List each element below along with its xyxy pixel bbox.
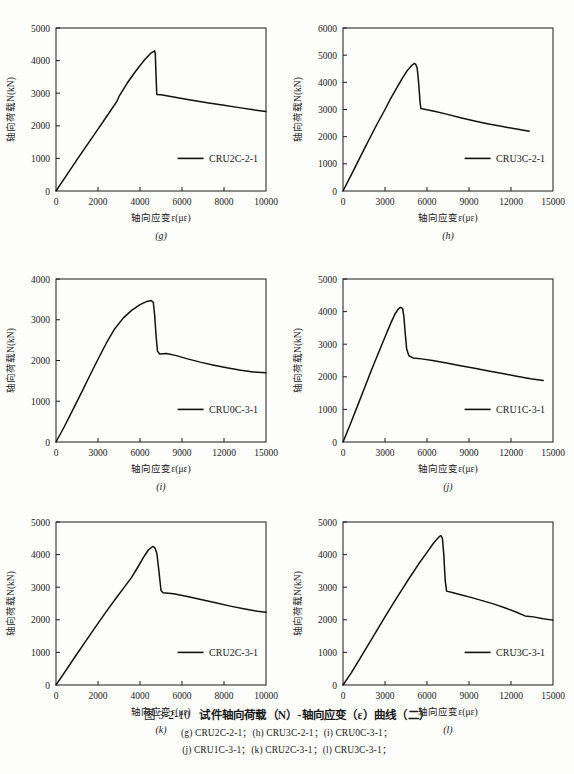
- y-tick-label: 5000: [31, 518, 50, 528]
- y-tick-label: 1000: [31, 154, 50, 164]
- x-tick-label: 0: [341, 448, 346, 458]
- y-tick-label: 5000: [318, 275, 337, 285]
- x-tick-label: 3000: [376, 448, 395, 458]
- y-tick-label: 1000: [318, 648, 337, 658]
- y-tick-label: 0: [332, 438, 337, 448]
- x-tick-label: 4000: [131, 691, 150, 701]
- x-tick-label: 3000: [376, 197, 395, 207]
- y-tick-label: 0: [332, 681, 337, 691]
- legend-label: CRU0C-3-1: [209, 404, 258, 415]
- y-tick-label: 4000: [31, 275, 50, 285]
- x-tick-label: 6000: [173, 197, 192, 207]
- y-axis-title: 轴向荷载N(kN): [5, 571, 17, 636]
- plot-frame: [343, 28, 553, 191]
- subplot-i: 0100020003000400003000600090001200015000…: [0, 257, 287, 502]
- y-tick-label: 5000: [318, 518, 337, 528]
- panel-letter: (g): [155, 230, 167, 242]
- y-tick-label: 1000: [31, 397, 50, 407]
- figure-caption: 图 3-2-10 试件轴向荷载（N）-轴向应变（ε）曲线（二） (g) CRU2…: [0, 706, 574, 756]
- x-tick-label: 6000: [418, 691, 437, 701]
- x-tick-label: 8000: [215, 691, 234, 701]
- x-axis-title: 轴向应变ε(με): [131, 463, 190, 475]
- data-curve: [343, 307, 543, 442]
- chart-g: 0100020003000400050000200040006000800010…: [0, 6, 287, 251]
- x-tick-label: 12000: [499, 691, 523, 701]
- caption-label: 图 3-2-10: [144, 709, 190, 721]
- y-axis-title: 轴向荷载N(kN): [5, 77, 17, 142]
- y-axis-title: 轴向荷载N(kN): [292, 77, 304, 142]
- y-tick-label: 2000: [318, 372, 337, 382]
- data-curve: [56, 301, 266, 442]
- caption-main-line: 图 3-2-10 试件轴向荷载（N）-轴向应变（ε）曲线（二）: [0, 706, 574, 722]
- y-tick-label: 4000: [31, 56, 50, 66]
- x-tick-label: 9000: [460, 691, 479, 701]
- y-tick-label: 2000: [31, 356, 50, 366]
- y-tick-label: 3000: [318, 583, 337, 593]
- x-tick-label: 15000: [541, 448, 565, 458]
- x-tick-label: 2000: [89, 691, 108, 701]
- legend-label: CRU3C-2-1: [496, 153, 545, 164]
- x-tick-label: 6000: [173, 691, 192, 701]
- y-tick-label: 4000: [318, 550, 337, 560]
- y-tick-label: 5000: [318, 51, 337, 61]
- y-tick-label: 0: [45, 187, 50, 197]
- legend-label: CRU2C-2-1: [209, 153, 258, 164]
- x-tick-label: 3000: [376, 691, 395, 701]
- y-tick-label: 0: [332, 187, 337, 197]
- legend-label: CRU3C-3-1: [496, 647, 545, 658]
- x-tick-label: 6000: [418, 448, 437, 458]
- y-tick-label: 1000: [318, 159, 337, 169]
- y-tick-label: 0: [45, 438, 50, 448]
- y-axis-title: 轴向荷载N(kN): [292, 571, 304, 636]
- x-tick-label: 4000: [131, 197, 150, 207]
- x-tick-label: 12000: [499, 448, 523, 458]
- x-tick-label: 15000: [541, 691, 565, 701]
- x-tick-label: 0: [54, 448, 59, 458]
- x-tick-label: 0: [341, 197, 346, 207]
- y-tick-label: 2000: [31, 121, 50, 131]
- caption-title: 试件轴向荷载（N）-轴向应变（ε）曲线（二）: [199, 709, 429, 721]
- x-tick-label: 15000: [254, 448, 278, 458]
- caption-sub-line-2: (j) CRU1C-3-1；(k) CRU2C-3-1；(l) CRU3C-3-…: [0, 742, 574, 756]
- x-tick-label: 9000: [173, 448, 192, 458]
- x-tick-label: 0: [54, 197, 59, 207]
- plot-frame: [343, 279, 553, 442]
- subplot-g: 0100020003000400050000200040006000800010…: [0, 6, 287, 251]
- y-axis-title: 轴向荷载N(kN): [5, 328, 17, 393]
- x-tick-label: 6000: [131, 448, 150, 458]
- caption-sub-line-1: (g) CRU2C-2-1；(h) CRU3C-2-1；(i) CRU0C-3-…: [0, 725, 574, 739]
- y-tick-label: 3000: [31, 89, 50, 99]
- x-tick-label: 0: [341, 691, 346, 701]
- x-tick-label: 9000: [460, 197, 479, 207]
- y-tick-label: 3000: [31, 583, 50, 593]
- subplot-h: 0100020003000400050006000030006000900012…: [287, 6, 574, 251]
- y-tick-label: 4000: [31, 550, 50, 560]
- y-tick-label: 3000: [318, 105, 337, 115]
- plot-frame: [56, 28, 266, 191]
- y-tick-label: 1000: [31, 648, 50, 658]
- x-tick-label: 8000: [215, 197, 234, 207]
- x-tick-label: 10000: [254, 197, 278, 207]
- plot-frame: [56, 522, 266, 685]
- chart-h: 0100020003000400050006000030006000900012…: [287, 6, 574, 251]
- plot-frame: [343, 522, 553, 685]
- figure-page: 0100020003000400050000200040006000800010…: [0, 0, 574, 774]
- y-tick-label: 0: [45, 681, 50, 691]
- data-curve: [56, 546, 266, 685]
- y-axis-title: 轴向荷载N(kN): [292, 328, 304, 393]
- chart-j: 0100020003000400050000300060009000120001…: [287, 257, 574, 502]
- x-tick-label: 2000: [89, 197, 108, 207]
- x-axis-title: 轴向应变ε(με): [418, 463, 477, 475]
- y-tick-label: 2000: [318, 615, 337, 625]
- y-tick-label: 6000: [318, 24, 337, 34]
- panel-letter: (i): [156, 481, 166, 493]
- legend-label: CRU1C-3-1: [496, 404, 545, 415]
- data-curve: [56, 51, 266, 191]
- x-tick-label: 10000: [254, 691, 278, 701]
- y-tick-label: 2000: [31, 615, 50, 625]
- legend-label: CRU2C-3-1: [209, 647, 258, 658]
- panel-letter: (j): [443, 481, 453, 493]
- x-axis-title: 轴向应变ε(με): [131, 212, 190, 224]
- panel-letter: (h): [442, 230, 454, 242]
- y-tick-label: 1000: [318, 405, 337, 415]
